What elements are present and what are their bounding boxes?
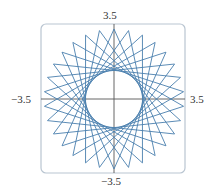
x-min-tick-label: −3.5 (11, 93, 31, 105)
x-max-tick-label: 3.5 (190, 93, 204, 105)
plot-frame (41, 24, 185, 173)
parametric-plot (0, 0, 211, 192)
y-min-tick-label: −3.5 (101, 175, 121, 187)
y-max-tick-label: 3.5 (103, 9, 117, 21)
